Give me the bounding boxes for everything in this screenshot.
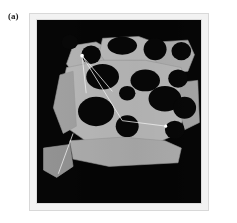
graph-root-node <box>80 54 84 58</box>
obstacle-blob <box>171 42 191 60</box>
obstacle-blob <box>144 38 167 60</box>
panel-label: (a) <box>8 12 19 21</box>
map-image-frame <box>29 13 209 211</box>
obstacle-blob <box>62 35 78 50</box>
obstacle-blob <box>78 97 114 126</box>
graph-goal-marker <box>164 124 167 127</box>
obstacle-blob <box>130 69 160 91</box>
free-space-region <box>70 137 182 166</box>
obstacle-blob <box>116 115 139 137</box>
obstacle-blob <box>108 36 138 54</box>
obstacle-blob <box>119 86 135 101</box>
obstacle-blob <box>165 121 185 139</box>
figure-panel: (a) <box>0 0 237 223</box>
obstacle-blob <box>173 97 196 119</box>
occupancy-map-canvas <box>37 20 201 203</box>
obstacle-blob <box>86 64 119 90</box>
occupancy-map-svg <box>37 20 201 203</box>
obstacle-blob <box>168 69 188 87</box>
map-image-frame-inner <box>36 19 202 204</box>
obstacle-blob <box>81 46 101 64</box>
